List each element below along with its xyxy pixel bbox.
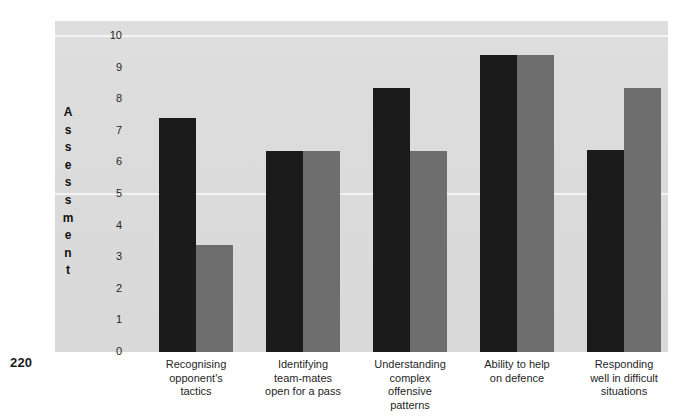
category-label-line: Ability to help [462,358,572,372]
bar [624,88,661,352]
category-label: Understandingcomplexoffensivepatterns [355,358,465,412]
bars-layer [55,21,668,352]
bar [587,150,624,352]
category-label-line: Identifying [248,358,358,372]
category-label: Respondingwell in difficultsituations [569,358,679,399]
category-label-line: Responding [569,358,679,372]
category-label: Recognisingopponent'stactics [141,358,251,399]
category-label-line: team-mates [248,372,358,386]
category-label-line: Recognising [141,358,251,372]
category-label-line: situations [569,385,679,399]
bar [373,88,410,352]
category-label-line: complex [355,372,465,386]
bar [303,151,340,352]
bar [410,151,447,352]
category-label-line: on defence [462,372,572,386]
bar [159,118,196,352]
category-label: Identifyingteam-matesopen for a pass [248,358,358,399]
category-label: Ability to helpon defence [462,358,572,385]
category-label-line: opponent's [141,372,251,386]
figure-page: 220 109876543210 Assessment Recognisingo… [0,0,696,417]
bar [266,151,303,352]
bar [517,55,554,352]
category-label-line: open for a pass [248,385,358,399]
category-label-line: offensive [355,385,465,399]
bar-chart: 109876543210 Assessment Recognisingoppon… [0,0,696,417]
category-label-line: Understanding [355,358,465,372]
category-label-line: patterns [355,399,465,413]
category-label-line: tactics [141,385,251,399]
bar [480,55,517,352]
bar [196,245,233,352]
category-label-line: well in difficult [569,372,679,386]
